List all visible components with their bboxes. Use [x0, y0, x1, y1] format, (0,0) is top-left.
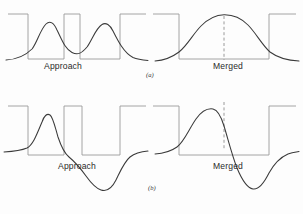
signal-curve-a-right [155, 15, 299, 61]
panel-label-a-merged: Merged [213, 61, 243, 71]
signal-curve-a-left [6, 22, 148, 60]
signal-curve-b-right [155, 109, 299, 189]
signal-curve-b-left [4, 114, 148, 190]
panel-b-approach-plot [2, 100, 150, 196]
panel-a-merged-plot [153, 4, 301, 66]
panel-label-b-merged: Merged [213, 161, 243, 171]
square-wave-reference-b-left [8, 106, 146, 155]
square-wave-reference-b-right [153, 106, 296, 155]
panel-label-a-approach: Approach [44, 61, 82, 71]
row-caption-a: (a) [146, 71, 154, 78]
panel-a-approach-plot [2, 4, 150, 66]
panel-label-b-approach: Approach [58, 161, 96, 171]
panel-b-merged-plot [153, 100, 301, 196]
square-wave-reference-a-right [153, 14, 296, 59]
row-caption-b: (b) [148, 184, 156, 191]
figure-root: Approach Merged (a) Approach Merged (b) [0, 0, 303, 214]
